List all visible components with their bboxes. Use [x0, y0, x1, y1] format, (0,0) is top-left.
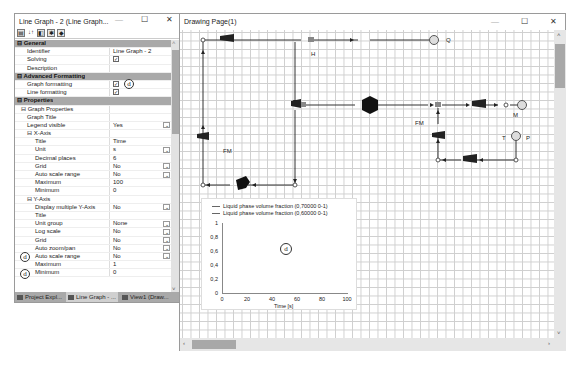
annotation-marker: d [20, 269, 30, 279]
property-row[interactable]: Log scaleNo⌄ [15, 228, 171, 236]
scroll-left-icon[interactable]: ‹ [183, 340, 185, 346]
dropdown-arrow-icon[interactable]: ⌄ [163, 245, 170, 251]
dropdown-arrow-icon[interactable]: ⌄ [163, 163, 170, 169]
pipe-icon [432, 131, 445, 139]
properties-window: Line Graph - 2 (Line Graph... — ☐ ✕ ▤ ↓↑… [14, 13, 180, 303]
property-row[interactable]: Auto scale rangeNo⌄ [15, 253, 171, 261]
dropdown-arrow-icon[interactable]: ⌄ [163, 253, 170, 259]
tab-project-explorer[interactable]: Project Expl... [15, 292, 64, 302]
tab-line-graph[interactable]: Line Graph - ... [66, 292, 118, 302]
property-row[interactable]: Description [15, 65, 171, 73]
plot-area [222, 223, 348, 294]
pipe-icon [220, 34, 234, 42]
y-tick: 0,6 [202, 248, 218, 254]
dropdown-arrow-icon[interactable]: ⌄ [163, 237, 170, 243]
scroll-up-icon[interactable]: ˄ [557, 32, 561, 38]
property-grid: ⊟ General IdentifierLine Graph - 2 Solvi… [15, 40, 171, 292]
y-tick: 1 [202, 220, 218, 226]
property-row[interactable]: GridNo⌄ [15, 163, 171, 171]
property-row[interactable]: Unit groupNone⌄ [15, 220, 171, 228]
categorized-icon[interactable]: ▤ [17, 29, 25, 37]
gauge-icon [430, 36, 439, 45]
graph-formatting-checkbox[interactable]: ✓ [113, 81, 119, 87]
scrollbar-thumb[interactable] [555, 44, 565, 88]
property-row[interactable]: Minimum0 [15, 187, 171, 195]
close-button[interactable]: ✕ [550, 17, 557, 26]
dropdown-arrow-icon[interactable]: ⌄ [163, 221, 170, 227]
property-row[interactable]: Solving✓ [15, 56, 171, 64]
pipe-icon [463, 154, 477, 163]
annotation-marker: d [280, 243, 292, 255]
property-row[interactable]: Decimal places6 [15, 155, 171, 163]
label-p-right: P [526, 135, 530, 141]
maximize-button[interactable]: ☐ [521, 17, 528, 26]
property-row[interactable]: TitleTime [15, 138, 171, 146]
dropdown-arrow-icon[interactable]: ⌄ [163, 147, 170, 153]
label-fm-left: FM [223, 148, 232, 154]
line-formatting-checkbox[interactable]: ✓ [113, 89, 119, 95]
pipe-icon [291, 99, 301, 108]
group-graph-properties[interactable]: ⊟ Graph Properties [15, 106, 171, 114]
property-row[interactable]: Legend visibleYes⌄ [15, 122, 171, 130]
property-row[interactable]: Maximum1 [15, 261, 171, 269]
close-button[interactable]: ✕ [166, 15, 173, 24]
y-tick: 0,2 [202, 276, 218, 282]
events-icon[interactable]: ◆ [57, 29, 65, 37]
line-graph[interactable]: Liquid phase volume fraction (0,70000 0-… [201, 198, 357, 310]
drawing-canvas[interactable]: P Q H FM FM M T P Liquid phase volume fr… [180, 30, 554, 338]
x-tick: 100 [340, 296, 354, 302]
group-y-axis[interactable]: ⊟ Y-Axis [15, 196, 171, 204]
drawing-vertical-scrollbar[interactable]: ˄ ˅ [554, 30, 566, 338]
gauge-icon [512, 132, 521, 141]
pages-icon[interactable]: ◧ [37, 29, 45, 37]
category-general[interactable]: ⊟ General [15, 40, 171, 48]
x-tick: 40 [265, 296, 279, 302]
dropdown-arrow-icon[interactable]: ⌄ [163, 204, 170, 210]
category-properties[interactable]: ⊟ Properties [15, 97, 171, 105]
pump-icon [236, 176, 250, 190]
pipe-icon [197, 132, 209, 140]
drawing-title-bar[interactable]: Drawing Page(1) — ☐ ✕ [180, 14, 565, 30]
scroll-down-icon[interactable]: ˅ [557, 330, 561, 336]
property-row[interactable]: Auto zoom/panNo⌄ [15, 245, 171, 253]
property-row[interactable]: Maximum100 [15, 179, 171, 187]
properties-title-bar[interactable]: Line Graph - 2 (Line Graph... — ☐ ✕ [15, 14, 179, 28]
solving-checkbox[interactable]: ✓ [113, 56, 119, 62]
scrollbar-thumb[interactable] [172, 50, 179, 134]
minimize-button[interactable]: — [115, 15, 123, 24]
category-advanced-formatting[interactable]: ⊟ Advanced Formatting [15, 73, 171, 81]
scrollbar-thumb[interactable] [192, 340, 236, 349]
property-row[interactable]: Units⌄ [15, 146, 171, 154]
scroll-up-icon[interactable]: ˄ [172, 40, 176, 46]
dropdown-arrow-icon[interactable]: ⌄ [163, 229, 170, 235]
property-row[interactable]: Graph formatting✓ d [15, 81, 171, 89]
drawing-title: Drawing Page(1) [184, 18, 237, 25]
minimize-button[interactable]: — [491, 17, 499, 26]
property-row[interactable]: Line formatting✓ [15, 89, 171, 97]
dropdown-arrow-icon[interactable]: ⌄ [163, 122, 170, 128]
property-row[interactable]: Auto scale rangeNo⌄ [15, 171, 171, 179]
property-row[interactable]: IdentifierLine Graph - 2 [15, 48, 171, 56]
tab-view1[interactable]: View1 (Draw... [120, 292, 171, 302]
legend-swatch [212, 206, 220, 207]
x-axis-label: Time [s] [274, 303, 293, 309]
settings-icon[interactable]: ✱ [47, 29, 55, 37]
maximize-button[interactable]: ☐ [141, 15, 148, 24]
property-row[interactable]: Graph Title [15, 114, 171, 122]
label-m: M [513, 112, 518, 118]
sort-az-icon[interactable]: ↓↑ [27, 29, 35, 37]
group-x-axis[interactable]: ⊟ X-Axis [15, 130, 171, 138]
property-row[interactable]: GridNo⌄ [15, 237, 171, 245]
label-t: T [502, 135, 506, 141]
property-row[interactable]: Display multiple Y-AxisNo⌄ [15, 204, 171, 212]
legend-swatch [212, 213, 220, 214]
property-row[interactable]: Title [15, 212, 171, 220]
x-tick: 20 [240, 296, 254, 302]
drawing-horizontal-scrollbar[interactable]: ‹ › [180, 338, 566, 351]
scroll-right-icon[interactable]: › [548, 340, 550, 346]
annotation-marker: d [124, 79, 134, 89]
property-row[interactable]: Minimum0 [15, 269, 171, 277]
dropdown-arrow-icon[interactable]: ⌄ [163, 172, 170, 178]
x-tick: 0 [215, 296, 229, 302]
gauge-icon [518, 101, 527, 110]
